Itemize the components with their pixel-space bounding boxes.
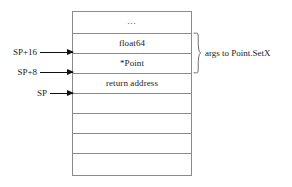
stack-cell-float64-label: float64: [119, 39, 145, 48]
ellipsis-label: …: [127, 17, 137, 26]
pointer-sp-label: SP: [10, 89, 50, 98]
pointer-sp: SP: [10, 87, 73, 99]
pointer-sp-plus-16-label: SP+16: [10, 48, 40, 57]
stack-cell-point-pointer-label: *Point: [120, 59, 144, 68]
stack-cell-return-address: return address: [73, 74, 191, 94]
stack-cell-empty-2: [73, 114, 191, 134]
stack-cell-point-pointer: *Point: [73, 54, 191, 74]
stack-cell-float64: float64: [73, 34, 191, 54]
stack-cell-empty-4: [73, 154, 191, 175]
curly-brace-icon: [193, 32, 202, 74]
pointer-sp-plus-16-arrow: [40, 52, 73, 53]
stack-cell-empty-3: [73, 134, 191, 154]
pointer-sp-plus-8-arrow: [40, 72, 73, 73]
stack-cell-return-address-label: return address: [106, 79, 158, 88]
args-annotation: args to Point.SetX: [193, 32, 271, 74]
args-annotation-label: args to Point.SetX: [202, 49, 271, 58]
stack-cell-ellipsis: …: [73, 12, 191, 34]
pointer-sp-plus-8-label: SP+8: [10, 68, 40, 77]
pointer-sp-arrow: [50, 93, 73, 94]
stack-box: … float64 *Point return address: [72, 11, 192, 176]
stack-frame-diagram: … float64 *Point return address SP+16 SP…: [0, 0, 292, 187]
stack-cell-empty-1: [73, 94, 191, 114]
pointer-sp-plus-16: SP+16: [10, 46, 73, 58]
pointer-sp-plus-8: SP+8: [10, 66, 73, 78]
